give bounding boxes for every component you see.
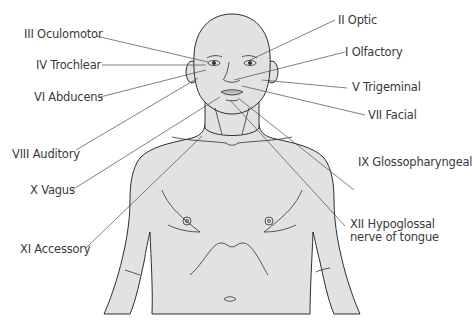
label-II-optic: II Optic [338, 14, 377, 27]
torso-outline [104, 125, 360, 314]
leader-V [262, 80, 347, 88]
label-VII-facial: VII Facial [368, 109, 417, 122]
label-XI-accessory: XI Accessory [20, 243, 90, 256]
face-outline [194, 14, 270, 114]
label-I-olfactory: I Olfactory [345, 46, 403, 59]
leader-VI [100, 70, 206, 97]
label-IV-trochlear: IV Trochlear [36, 59, 101, 72]
label-VI-abducens: VI Abducens [34, 91, 103, 104]
label-IX-glossopharyngeal: IX Glossopharyngeal [358, 156, 472, 169]
right-pupil [248, 61, 251, 64]
label-V-trigeminal: V Trigeminal [352, 81, 421, 94]
leader-III [96, 36, 208, 62]
label-III-oculomotor: III Oculomotor [24, 28, 102, 41]
left-pupil [212, 61, 215, 64]
leader-VIII [76, 78, 198, 150]
label-VIII-auditory: VIII Auditory [12, 148, 80, 161]
label-X-vagus: X Vagus [30, 184, 75, 197]
label-XII-hypoglossal: XII Hypoglossal nerve of tongue [350, 218, 462, 244]
head [186, 14, 278, 114]
body-figure [104, 95, 360, 314]
